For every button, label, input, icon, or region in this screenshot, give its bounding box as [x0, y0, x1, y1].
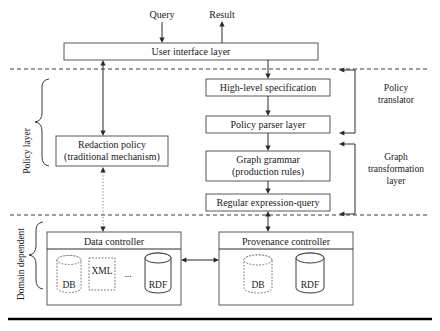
regular-expression-query-label: Regular expression-query [216, 197, 319, 208]
provenance-controller-store-db-label: DB [251, 280, 264, 290]
policy-translator-label-2: translator [378, 95, 415, 105]
policyparser-graphgrammar-connector [265, 133, 270, 151]
graph-grammar-label-2: (production rules) [232, 166, 304, 178]
provenance-controller-store-rdf: RDF [296, 253, 324, 293]
graph-transformation-label-2: transformation [368, 164, 424, 174]
data-controller-store-db-label: DB [62, 280, 75, 290]
graph-grammar-box[interactable]: Graph grammar (production rules) [206, 151, 330, 181]
policy-translator-label-1: Policy [384, 83, 409, 93]
regexquery-provenance-connector [265, 211, 270, 232]
user-interface-layer-box[interactable]: User interface layer [64, 43, 318, 60]
domain-dependent-group: Domain dependent [16, 222, 43, 300]
architecture-diagram: Query Result User interface layer Redact… [0, 0, 440, 331]
highlevelspec-policyparser-connector [265, 96, 270, 116]
data-controller-store-xml-label: XML [91, 266, 112, 276]
policy-layer-group: Policy layer [22, 79, 49, 174]
graph-grammar-label-1: Graph grammar [236, 154, 300, 165]
policy-layer-label: Policy layer [22, 127, 32, 173]
provenance-controller-label: Provenance controller [242, 236, 331, 247]
ui-redaction-connector [100, 60, 105, 136]
high-level-specification-box[interactable]: High-level specification [206, 79, 330, 96]
redaction-policy-box[interactable]: Redaction policy (traditional mechanism) [56, 136, 168, 166]
data-controller-store-xml: XML [89, 258, 115, 290]
data-controller-box[interactable]: Data controller DB XML ... RDF [47, 232, 181, 305]
policy-parser-layer-label: Policy parser layer [231, 119, 307, 130]
result-arrow [219, 21, 224, 43]
policy-parser-layer-box[interactable]: Policy parser layer [206, 116, 330, 133]
policy-translator-bracket [339, 67, 355, 135]
provenance-controller-store-db: DB [244, 255, 272, 293]
regular-expression-query-box[interactable]: Regular expression-query [206, 194, 330, 211]
redaction-datacontroller-connector [100, 167, 105, 232]
high-level-specification-label: High-level specification [220, 82, 316, 93]
domain-dependent-label: Domain dependent [16, 228, 26, 300]
query-arrow [159, 22, 164, 43]
graph-transformation-label-3: layer [387, 176, 407, 186]
result-label: Result [209, 9, 235, 20]
datacontroller-provenance-connector [181, 257, 219, 262]
query-label: Query [150, 9, 175, 20]
data-controller-store-rdf-label: RDF [149, 280, 167, 290]
graph-transformation-bracket [339, 141, 355, 216]
provenance-controller-store-rdf-label: RDF [301, 280, 319, 290]
user-interface-layer-label: User interface layer [152, 46, 232, 57]
provenance-controller-box[interactable]: Provenance controller DB RDF [219, 232, 353, 305]
graphgrammar-regexquery-connector [265, 181, 270, 194]
data-controller-label: Data controller [84, 236, 145, 247]
redaction-policy-label-1: Redaction policy [78, 139, 146, 150]
data-controller-store-db: DB [57, 256, 81, 293]
data-controller-store-rdf: RDF [145, 253, 171, 293]
redaction-policy-label-2: (traditional mechanism) [64, 151, 160, 163]
graph-transformation-label-1: Graph [384, 152, 408, 162]
data-controller-store-ellipsis: ... [124, 269, 131, 279]
